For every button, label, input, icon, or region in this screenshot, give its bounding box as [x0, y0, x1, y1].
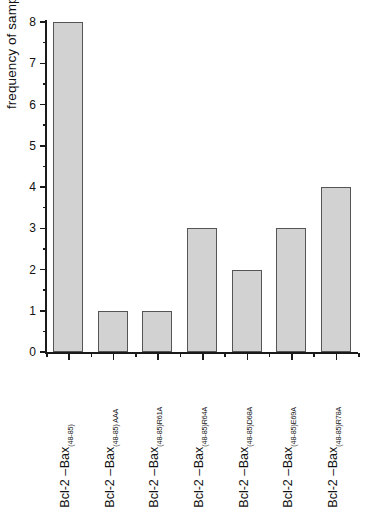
y-tick-label: 0: [16, 346, 36, 358]
x-tick-major: [157, 353, 159, 360]
y-tick-label: 3: [16, 222, 36, 234]
y-tick-label: 2: [16, 264, 36, 276]
x-tick-minor: [91, 353, 93, 357]
label-prefix: Bcl-2: [237, 476, 251, 508]
x-tick-major: [113, 353, 115, 360]
plot-area: [46, 22, 358, 352]
label-protein: Bax: [103, 447, 117, 469]
x-axis-label: Bcl-2 –Bax(48-85)R64A: [193, 407, 208, 508]
y-tick-label: 7: [16, 57, 36, 69]
x-tick-major: [202, 353, 204, 360]
label-prefix: Bcl-2: [281, 476, 295, 508]
x-axis-label: Bcl-2 –Bax(48-85): [60, 425, 75, 508]
x-axis-label: Bcl-2 –Bax(48-85) AAA: [104, 409, 119, 508]
x-tick-minor: [180, 353, 182, 357]
label-dash: –: [103, 469, 117, 476]
bar: [53, 22, 83, 352]
y-axis-ticks: 876543210: [0, 0, 46, 374]
bar: [98, 311, 128, 352]
label-protein: Bax: [59, 447, 73, 469]
label-subscript: (48-85)R61A: [155, 407, 164, 447]
x-axis-label: Bcl-2 –Bax(48-85)R78A: [327, 407, 342, 508]
label-protein: Bax: [237, 447, 251, 469]
x-tick-minor: [224, 353, 226, 357]
bar: [142, 311, 172, 352]
label-subscript: (48-85)E69A: [289, 407, 298, 447]
bar: [276, 228, 306, 352]
label-prefix: Bcl-2: [148, 476, 162, 508]
label-dash: –: [281, 469, 295, 476]
x-tick-major: [336, 353, 338, 360]
y-tick-label: 1: [16, 305, 36, 317]
label-subscript: (48-85)R64A: [200, 407, 209, 447]
bar-chart: frequency of sampling 876543210 Bcl-2 –B…: [0, 0, 368, 512]
label-prefix: Bcl-2: [192, 476, 206, 508]
label-prefix: Bcl-2: [103, 476, 117, 508]
label-prefix: Bcl-2: [326, 476, 340, 508]
label-dash: –: [192, 469, 206, 476]
label-dash: –: [148, 469, 162, 476]
label-dash: –: [59, 469, 73, 476]
y-tick-label: 8: [16, 16, 36, 28]
x-tick-major: [247, 353, 249, 360]
bar: [232, 270, 262, 353]
x-tick-minor: [46, 353, 48, 357]
bar: [187, 228, 217, 352]
x-axis-label: Bcl-2 –Bax(48-85)D68A: [238, 407, 253, 508]
x-tick-minor: [358, 353, 360, 357]
x-tick-major: [68, 353, 70, 360]
label-subscript: (48-85): [66, 425, 75, 447]
label-protein: Bax: [281, 447, 295, 469]
label-protein: Bax: [192, 447, 206, 469]
label-prefix: Bcl-2: [59, 476, 73, 508]
x-tick-minor: [269, 353, 271, 357]
label-subscript: (48-85) AAA: [111, 409, 120, 447]
y-tick-label: 5: [16, 140, 36, 152]
x-axis-label: Bcl-2 –Bax(48-85)E69A: [282, 407, 297, 508]
label-protein: Bax: [148, 447, 162, 469]
label-subscript: (48-85)D68A: [244, 407, 253, 447]
x-tick-minor: [313, 353, 315, 357]
y-tick-label: 6: [16, 99, 36, 111]
x-axis-label: Bcl-2 –Bax(48-85)R61A: [149, 407, 164, 508]
label-protein: Bax: [326, 447, 340, 469]
label-dash: –: [326, 469, 340, 476]
x-axis-labels: Bcl-2 –Bax(48-85)Bcl-2 –Bax(48-85) AAABc…: [0, 360, 368, 512]
y-tick-label: 4: [16, 181, 36, 193]
label-dash: –: [237, 469, 251, 476]
x-tick-major: [291, 353, 293, 360]
x-tick-minor: [135, 353, 137, 357]
bar: [321, 187, 351, 352]
label-subscript: (48-85)R78A: [334, 407, 343, 447]
